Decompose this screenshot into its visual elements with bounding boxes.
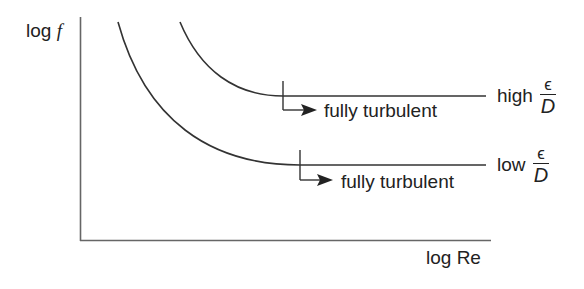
y-axis-label-variable: f: [57, 20, 62, 41]
low-annotation: fully turbulent: [341, 171, 454, 193]
fraction-denominator: D: [541, 95, 555, 116]
high-curve-label-fraction: ϵ D: [540, 76, 556, 116]
low-fully-turbulent-marker: [300, 150, 333, 186]
high-fully-turbulent-marker: [283, 81, 317, 116]
y-axis-label: log f: [26, 20, 62, 42]
low-curve-label-fraction: ϵ D: [533, 145, 549, 185]
high-roughness-curve: [180, 22, 486, 96]
x-axis-label: log Re: [426, 247, 481, 269]
high-curve-label-word: high: [497, 85, 533, 107]
fraction-numerator: ϵ: [533, 145, 549, 164]
fraction-numerator: ϵ: [540, 76, 556, 95]
y-axis-label-prefix: log: [26, 20, 57, 41]
fraction-denominator: D: [534, 164, 548, 185]
low-roughness-curve: [118, 22, 486, 165]
low-curve-label-word: low: [497, 154, 526, 176]
moody-diagram-canvas: [0, 0, 584, 289]
high-annotation: fully turbulent: [324, 100, 437, 122]
